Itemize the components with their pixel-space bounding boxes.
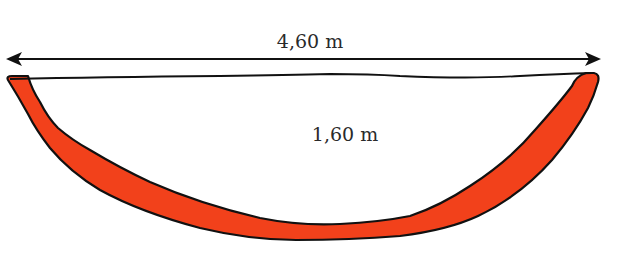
- width-dimension-arrow: [6, 52, 601, 66]
- width-label: 4,60 m: [277, 30, 343, 52]
- depth-label: 1,60 m: [312, 123, 378, 145]
- rim-line: [10, 73, 592, 79]
- bowl-wall: [8, 73, 599, 240]
- bowl-diagram: 4,60 m 1,60 m: [0, 0, 620, 254]
